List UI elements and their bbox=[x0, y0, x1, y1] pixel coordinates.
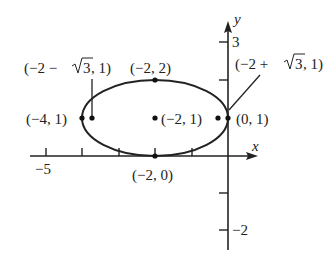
point-left-focus bbox=[89, 115, 94, 120]
point-center bbox=[152, 115, 157, 120]
point-bottom-vertex bbox=[152, 153, 157, 158]
svg-text:(−2 +: (−2 + bbox=[235, 56, 268, 73]
label-center: (−2, 1) bbox=[161, 111, 202, 128]
label-top-vertex: (−2, 2) bbox=[130, 60, 171, 77]
y-axis-label: y bbox=[232, 11, 241, 27]
svg-text:3: 3 bbox=[295, 56, 303, 72]
points bbox=[79, 77, 230, 158]
label-left-vertex: (−4, 1) bbox=[26, 111, 67, 128]
svg-text:(−2 −: (−2 − bbox=[24, 60, 57, 77]
label-right-focus: (−2 + 3 , 1) bbox=[235, 54, 323, 73]
point-right-vertex bbox=[225, 115, 230, 120]
right-focus-leader bbox=[229, 75, 260, 110]
svg-text:3: 3 bbox=[83, 60, 91, 76]
svg-text:, 1): , 1) bbox=[303, 56, 323, 73]
tick-label-y-3: 3 bbox=[232, 34, 240, 50]
x-axis-label: x bbox=[251, 138, 259, 154]
ellipse-diagram: y x 3 −2 −5 (−2, 2) (−2, 0) (−4, 1) (0, … bbox=[0, 0, 332, 261]
label-right-vertex: (0, 1) bbox=[236, 111, 269, 128]
point-top-vertex bbox=[152, 77, 157, 82]
point-right-focus bbox=[215, 115, 220, 120]
tick-label-y-minus2: −2 bbox=[232, 222, 248, 238]
point-left-vertex bbox=[79, 115, 84, 120]
label-left-focus: (−2 − 3 , 1) bbox=[24, 58, 111, 77]
svg-text:, 1): , 1) bbox=[91, 60, 111, 77]
label-bottom-vertex: (−2, 0) bbox=[132, 167, 173, 184]
tick-label-x-minus5: −5 bbox=[35, 161, 51, 177]
